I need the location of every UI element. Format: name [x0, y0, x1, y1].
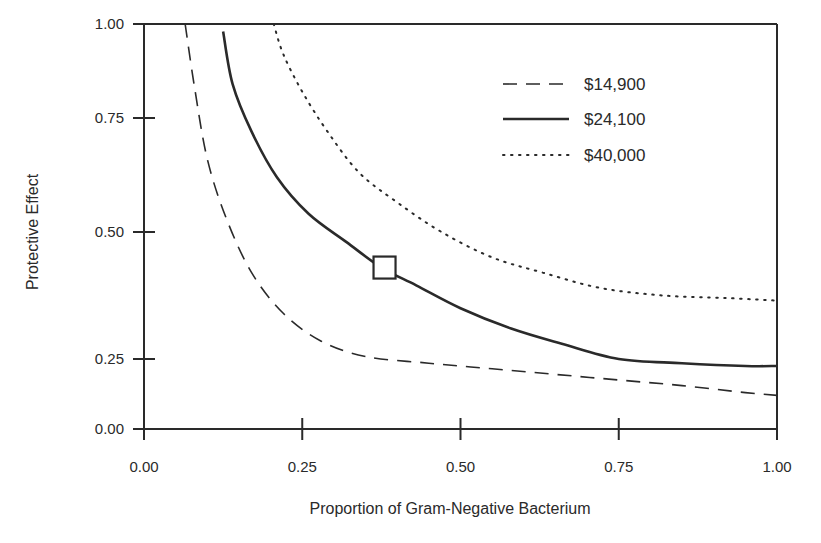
x-tick-label: 0.00: [129, 458, 158, 475]
curves: [185, 24, 777, 395]
chart: 0.000.250.500.751.00 0.000.250.500.751.0…: [0, 0, 821, 543]
curve-dashed: [185, 24, 777, 395]
plot-frame: [133, 24, 777, 440]
x-tick-label: 1.00: [762, 458, 791, 475]
y-tick-label: 1.00: [95, 15, 124, 32]
legend-label: $24,100: [584, 110, 645, 129]
x-tick-label: 0.50: [446, 458, 475, 475]
legend: $14,900$24,100$40,000: [503, 75, 645, 165]
legend-label: $14,900: [584, 75, 645, 94]
x-tick-label: 0.75: [604, 458, 633, 475]
y-tick-label: 0.75: [95, 109, 124, 126]
x-tick-label: 0.25: [288, 458, 317, 475]
markers: [374, 257, 396, 279]
y-axis-ticks: 0.000.250.500.751.00: [95, 15, 155, 437]
square-marker: [374, 257, 396, 279]
x-axis-ticks: 0.000.250.500.751.00: [129, 418, 791, 475]
y-tick-label: 0.25: [95, 350, 124, 367]
y-axis-title: Protective Effect: [24, 173, 41, 290]
curve-dotted: [274, 24, 777, 301]
curve-solid: [223, 32, 777, 367]
y-tick-label: 0.00: [95, 420, 124, 437]
y-tick-label: 0.50: [95, 223, 124, 240]
legend-label: $40,000: [584, 146, 645, 165]
x-axis-title: Proportion of Gram-Negative Bacterium: [310, 500, 591, 517]
